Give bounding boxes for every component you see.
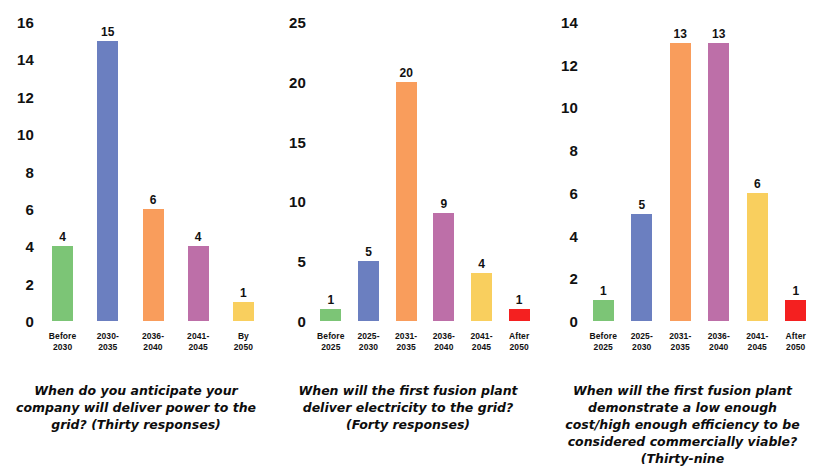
bar-wrapper: 6 xyxy=(738,193,777,321)
bar xyxy=(396,82,417,321)
bar-wrapper: 1 xyxy=(500,309,538,321)
x-axis-tick-label: 2025- 2030 xyxy=(623,331,662,352)
bar xyxy=(97,41,118,321)
bar-wrapper: 20 xyxy=(387,82,425,321)
y-axis-tick-label: 10 xyxy=(17,126,34,143)
y-axis-tick-label: 25 xyxy=(289,14,306,31)
bar-wrapper: 15 xyxy=(85,41,130,321)
plot-area-1: 1614121086420 415641 xyxy=(0,22,272,321)
bars-container-1: 415641 xyxy=(40,22,266,321)
y-axis-tick-label: 12 xyxy=(17,88,34,105)
x-axis-tick-label: 2041- 2045 xyxy=(176,331,221,352)
bar-slot: 13 xyxy=(661,22,700,321)
bar-value-label: 6 xyxy=(150,194,157,206)
bar-wrapper: 4 xyxy=(40,246,85,321)
x-axis-tick-label: 2025- 2030 xyxy=(350,331,388,352)
chart-panel-2: 2520151050 1520941 Before 20252025- 2030… xyxy=(272,0,544,465)
bar-wrapper: 9 xyxy=(425,213,463,321)
y-axis-tick-label: 2 xyxy=(569,270,578,287)
y-axis-tick-label: 10 xyxy=(289,193,306,210)
bar xyxy=(708,43,729,321)
bar xyxy=(670,43,691,321)
x-axis-tick-label: 2041- 2045 xyxy=(738,331,777,352)
x-axis-tick-label: After 2050 xyxy=(777,331,816,352)
y-axis-tick-label: 4 xyxy=(569,227,578,244)
bar-value-label: 20 xyxy=(399,67,412,79)
bar-slot: 15 xyxy=(85,22,130,321)
bar-value-label: 4 xyxy=(478,258,485,270)
bar xyxy=(358,261,379,321)
x-axis-tick-label: 2036- 2040 xyxy=(425,331,463,352)
y-axis-tick-label: 0 xyxy=(569,313,578,330)
bar-slot: 6 xyxy=(738,22,777,321)
panel-caption-2: When will the first fusion plant deliver… xyxy=(284,383,532,434)
panel-caption-3: When will the first fusion plant demonst… xyxy=(556,383,809,467)
bar-wrapper: 1 xyxy=(584,300,623,321)
bar-slot: 1 xyxy=(584,22,623,321)
bar-wrapper: 13 xyxy=(700,43,739,321)
bar-wrapper: 6 xyxy=(130,209,175,321)
bar xyxy=(747,193,768,321)
bar-value-label: 1 xyxy=(327,294,334,306)
bar xyxy=(320,309,341,321)
y-axis-tick-label: 14 xyxy=(17,51,34,68)
bar-wrapper: 4 xyxy=(176,246,221,321)
bar-value-label: 15 xyxy=(101,26,114,38)
bar xyxy=(188,246,209,321)
x-axis-tick-label: Before 2025 xyxy=(584,331,623,352)
y-axis-1: 1614121086420 xyxy=(0,22,34,321)
bar-slot: 4 xyxy=(40,22,85,321)
y-axis-tick-label: 10 xyxy=(561,99,578,116)
x-axis-tick-label: Before 2030 xyxy=(40,331,85,352)
bar-wrapper: 4 xyxy=(463,273,501,321)
y-axis-tick-label: 0 xyxy=(297,313,306,330)
bar-value-label: 1 xyxy=(792,285,799,297)
bar-wrapper: 1 xyxy=(221,302,266,321)
panel-caption-1: When do you anticipate your company will… xyxy=(12,383,260,434)
x-axis-labels-1: Before 20302030- 20352036- 20402041- 204… xyxy=(40,331,266,352)
bar-slot: 1 xyxy=(777,22,816,321)
chart-panel-3: 14121086420 15131361 Before 20252025- 20… xyxy=(544,0,821,465)
bar-value-label: 5 xyxy=(365,246,372,258)
y-axis-tick-label: 5 xyxy=(297,253,306,270)
bar xyxy=(52,246,73,321)
bar-slot: 9 xyxy=(425,22,463,321)
bar-value-label: 9 xyxy=(441,198,448,210)
y-axis-tick-label: 16 xyxy=(17,14,34,31)
x-axis-labels-2: Before 20252025- 20302031- 20352036- 204… xyxy=(312,331,538,352)
bar-value-label: 1 xyxy=(600,285,607,297)
bar-value-label: 4 xyxy=(59,231,66,243)
y-axis-tick-label: 8 xyxy=(569,142,578,159)
bar-slot: 13 xyxy=(700,22,739,321)
bar xyxy=(593,300,614,321)
bar-value-label: 13 xyxy=(712,28,725,40)
y-axis-tick-label: 6 xyxy=(25,200,34,217)
y-axis-tick-label: 0 xyxy=(25,313,34,330)
x-axis-tick-label: After 2050 xyxy=(500,331,538,352)
bar-value-label: 6 xyxy=(754,178,761,190)
chart-panel-1: 1614121086420 415641 Before 20302030- 20… xyxy=(0,0,272,465)
bar-wrapper: 5 xyxy=(350,261,388,321)
x-axis-tick-label: 2036- 2040 xyxy=(130,331,175,352)
bar-value-label: 1 xyxy=(240,287,247,299)
bar-value-label: 1 xyxy=(516,294,523,306)
y-axis-tick-label: 15 xyxy=(289,133,306,150)
bar-slot: 1 xyxy=(500,22,538,321)
y-axis-tick-label: 6 xyxy=(569,184,578,201)
bar-slot: 5 xyxy=(623,22,662,321)
bar-value-label: 13 xyxy=(674,28,687,40)
bar xyxy=(631,214,652,321)
x-axis-tick-label: 2041- 2045 xyxy=(463,331,501,352)
y-axis-tick-label: 8 xyxy=(25,163,34,180)
bars-container-3: 15131361 xyxy=(584,22,815,321)
y-axis-tick-label: 12 xyxy=(561,56,578,73)
bar xyxy=(509,309,530,321)
y-axis-tick-label: 2 xyxy=(25,275,34,292)
x-axis-tick-label: By 2050 xyxy=(221,331,266,352)
bar xyxy=(433,213,454,321)
bar-wrapper: 5 xyxy=(623,214,662,321)
x-axis-tick-label: 2031- 2035 xyxy=(661,331,700,352)
bar-slot: 1 xyxy=(312,22,350,321)
plot-area-3: 14121086420 15131361 xyxy=(544,22,821,321)
